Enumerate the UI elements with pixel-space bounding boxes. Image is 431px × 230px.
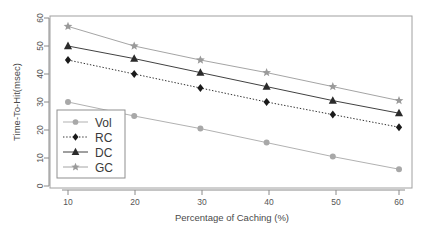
data-point-vol-40 bbox=[264, 140, 270, 146]
y-tick-label-20: 20 bbox=[35, 125, 45, 135]
data-point-gc-30 bbox=[196, 55, 205, 63]
chart-container: 0 10 20 30 40 50 60 10 20 30 40 50 60 P bbox=[0, 0, 431, 230]
data-point-vol-30 bbox=[197, 126, 203, 132]
y-tick-label-60: 60 bbox=[35, 13, 45, 23]
data-point-vol-10 bbox=[65, 99, 71, 105]
data-point-rc-30 bbox=[197, 84, 203, 92]
series-dc bbox=[64, 42, 403, 117]
data-point-rc-50 bbox=[330, 111, 336, 119]
y-tick-label-30: 30 bbox=[35, 97, 45, 107]
data-point-vol-20 bbox=[131, 113, 137, 119]
data-point-gc-10 bbox=[64, 22, 73, 30]
series-line-gc bbox=[68, 26, 399, 100]
x-axis-tick-labels: 10 20 30 40 50 60 bbox=[63, 197, 404, 207]
x-tick-label-30: 30 bbox=[197, 197, 207, 207]
data-point-vol-50 bbox=[330, 154, 336, 160]
y-axis-tick-labels: 0 10 20 30 40 50 60 bbox=[35, 13, 45, 188]
data-point-gc-40 bbox=[262, 68, 271, 76]
data-point-vol-60 bbox=[396, 166, 402, 172]
y-tick-label-10: 10 bbox=[35, 153, 45, 163]
y-tick-label-0: 0 bbox=[35, 183, 45, 188]
data-point-rc-60 bbox=[396, 123, 402, 131]
data-point-gc-50 bbox=[328, 82, 337, 90]
legend-box bbox=[57, 110, 125, 178]
legend-label-gc: GC bbox=[95, 161, 113, 175]
data-point-rc-10 bbox=[65, 56, 71, 64]
x-tick-label-10: 10 bbox=[63, 197, 73, 207]
x-axis-ticks bbox=[68, 190, 399, 195]
legend-label-rc: RC bbox=[95, 131, 113, 145]
time-to-hit-line-chart: 0 10 20 30 40 50 60 10 20 30 40 50 60 P bbox=[0, 0, 431, 230]
data-point-gc-20 bbox=[130, 41, 139, 49]
x-axis-title: Percentage of Caching (%) bbox=[175, 212, 289, 223]
x-tick-label-50: 50 bbox=[331, 197, 341, 207]
data-point-rc-20 bbox=[131, 70, 137, 78]
y-axis-title: Time-To-Hit(msec) bbox=[11, 63, 22, 141]
x-tick-label-60: 60 bbox=[394, 197, 404, 207]
x-tick-label-20: 20 bbox=[130, 197, 140, 207]
y-tick-label-50: 50 bbox=[35, 41, 45, 51]
y-tick-label-40: 40 bbox=[35, 69, 45, 79]
data-point-dc-10 bbox=[64, 42, 72, 50]
series-line-dc bbox=[68, 46, 399, 113]
legend[interactable]: VolRCDCGC bbox=[57, 110, 125, 178]
data-point-rc-40 bbox=[263, 98, 269, 106]
legend-label-dc: DC bbox=[95, 146, 113, 160]
data-point-gc-60 bbox=[395, 96, 404, 104]
x-tick-label-40: 40 bbox=[264, 197, 274, 207]
series-gc bbox=[64, 22, 404, 105]
legend-label-vol: Vol bbox=[95, 116, 112, 130]
legend-marker-vol bbox=[73, 119, 79, 125]
